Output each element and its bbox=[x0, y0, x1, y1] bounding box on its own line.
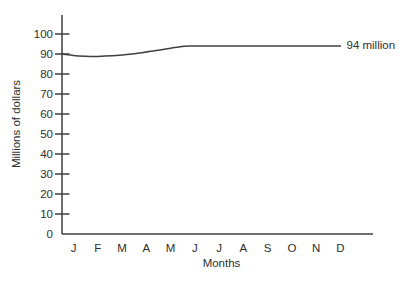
chart-canvas: 0102030405060708090100 JFMAMJJASOND 94 m… bbox=[0, 0, 407, 282]
x-tick-label-month: M bbox=[117, 242, 127, 254]
annotation-94-million: 94 million bbox=[347, 39, 396, 51]
x-tick-label-month: A bbox=[142, 242, 150, 254]
y-tick-label: 80 bbox=[40, 68, 53, 80]
y-tick-label: 70 bbox=[40, 88, 53, 100]
y-tick-label: 0 bbox=[47, 228, 53, 240]
line-chart: 0102030405060708090100 JFMAMJJASOND 94 m… bbox=[0, 0, 407, 282]
y-tick-label: 50 bbox=[40, 128, 53, 140]
x-tick-label-month: J bbox=[71, 242, 77, 254]
y-tick-label: 90 bbox=[40, 48, 53, 60]
x-tick-label-month: O bbox=[287, 242, 296, 254]
y-tick-label: 40 bbox=[40, 148, 53, 160]
x-axis-tick-labels: JFMAMJJASOND bbox=[71, 242, 345, 254]
x-tick-label-month: M bbox=[166, 242, 176, 254]
y-axis-title: Millions of dollars bbox=[10, 80, 22, 168]
x-tick-label-month: F bbox=[94, 242, 101, 254]
y-tick-label: 20 bbox=[40, 188, 53, 200]
x-axis-title: Months bbox=[203, 257, 241, 269]
y-tick-label: 10 bbox=[40, 208, 53, 220]
data-line bbox=[62, 46, 341, 56]
x-tick-label-month: N bbox=[312, 242, 320, 254]
y-tick-label: 30 bbox=[40, 168, 53, 180]
y-tick-label: 100 bbox=[34, 28, 53, 40]
y-tick-label: 60 bbox=[40, 108, 53, 120]
y-axis-tick-labels: 0102030405060708090100 bbox=[34, 28, 53, 240]
x-tick-label-month: J bbox=[192, 242, 198, 254]
x-tick-label-month: J bbox=[216, 242, 222, 254]
x-tick-label-month: A bbox=[240, 242, 248, 254]
x-tick-label-month: S bbox=[264, 242, 272, 254]
x-tick-label-month: D bbox=[336, 242, 344, 254]
